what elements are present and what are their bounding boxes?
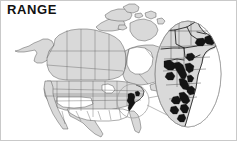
range-figure: RANGE [0,0,237,141]
region-usa-florida [129,111,141,133]
region-island-small-b [157,18,165,24]
region-island-small-c [118,25,127,30]
region-canada-west [47,29,126,80]
inset-mid-atlantic [155,21,226,129]
region-island-baffin [130,19,158,41]
region-island-small-a [145,11,156,19]
main-map-north-america [15,4,174,137]
region-island-small-d [135,13,143,18]
range-map-svg [1,1,237,141]
range-highlight-main-map [127,93,135,111]
